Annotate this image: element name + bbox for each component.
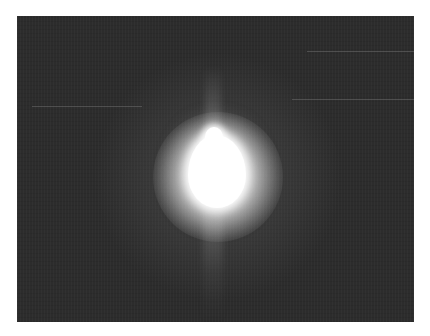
scanline-artifact bbox=[307, 51, 414, 52]
light-source-tip bbox=[205, 127, 223, 147]
photo-frame bbox=[17, 16, 414, 322]
